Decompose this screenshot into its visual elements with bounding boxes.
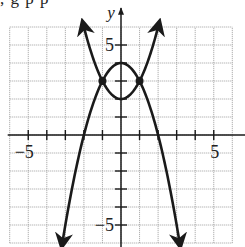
- x-tick-label: −5: [15, 142, 34, 162]
- y-tick-label: 5: [105, 35, 114, 55]
- axes: y: [8, 3, 245, 247]
- intersection-point: [136, 77, 144, 85]
- intersection-point: [98, 77, 106, 85]
- y-tick-label: −5: [95, 215, 114, 235]
- coordinate-graph: y −555−5: [0, 0, 245, 247]
- y-axis-label: y: [105, 3, 115, 22]
- x-tick-label: 5: [210, 142, 219, 162]
